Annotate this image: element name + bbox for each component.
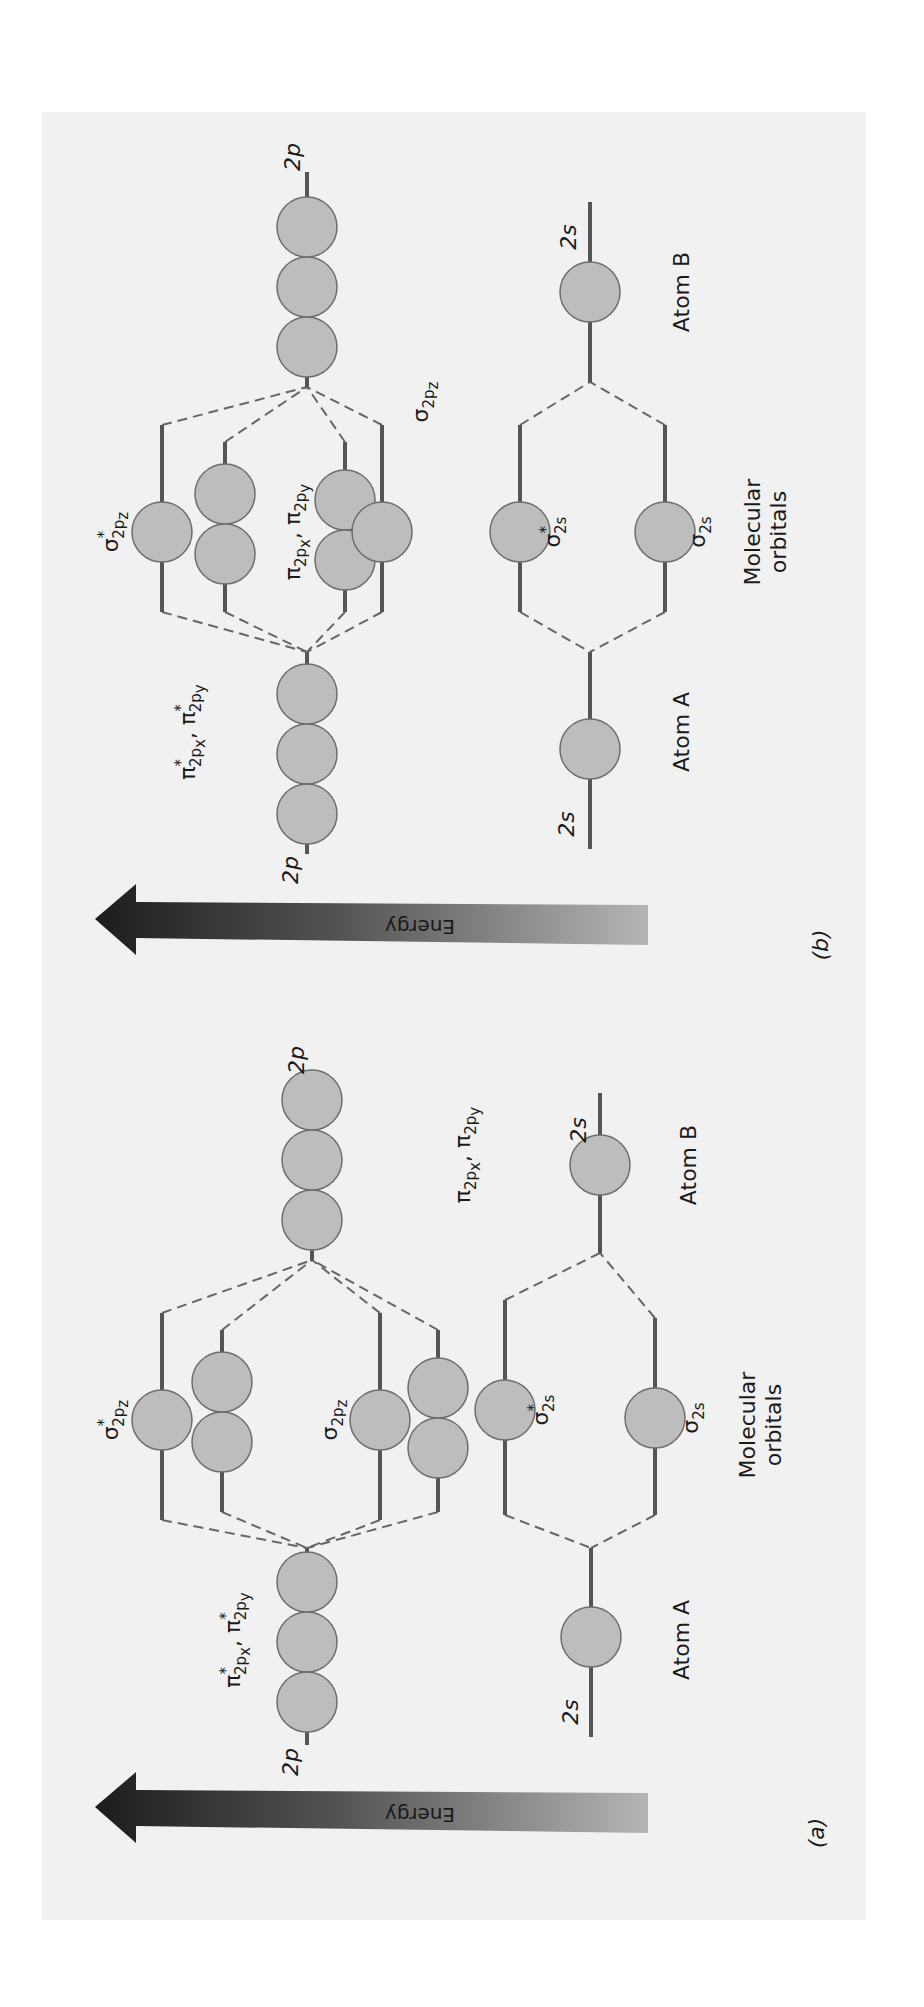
ao-2s-label: 2s xyxy=(566,1117,591,1142)
ao-2s-label: 2s xyxy=(556,224,581,249)
ao-2p-label: 2p xyxy=(278,1748,303,1776)
mo-caption-line2: orbitals xyxy=(766,491,791,573)
mo-diagram-figure: Energy (b) 2p π*2px, π*2py 2s Atom A xyxy=(0,0,924,2007)
ao-2s-label: 2s xyxy=(558,1699,583,1724)
energy-label: Energy xyxy=(385,1803,455,1827)
ao-2p-label: 2p xyxy=(278,856,303,884)
mo-caption-line2: orbitals xyxy=(761,1384,786,1466)
atom-b-label: Atom B xyxy=(676,1125,701,1205)
panel-caption: (b) xyxy=(808,929,833,960)
atom-b-label: Atom B xyxy=(669,252,694,332)
ao-2p-label: 2p xyxy=(284,1046,309,1074)
atom-b-2p: 2p xyxy=(282,1046,342,1260)
ao-2s-label: 2s xyxy=(554,811,579,836)
energy-label: Energy xyxy=(385,915,455,939)
orbital-lobe xyxy=(277,784,337,844)
atom-a-label: Atom A xyxy=(669,1600,694,1680)
ao-2p-label: 2p xyxy=(280,143,305,171)
orbital-lobe xyxy=(277,724,337,784)
panel-caption: (a) xyxy=(804,1818,829,1849)
atom-a-label: Atom A xyxy=(669,692,694,772)
mo-caption-line1: Molecular xyxy=(735,1371,760,1479)
orbital-lobe xyxy=(277,664,337,724)
figure-background xyxy=(42,112,866,1920)
orbital-lobe xyxy=(560,719,620,779)
mo-caption-line1: Molecular xyxy=(740,478,765,586)
